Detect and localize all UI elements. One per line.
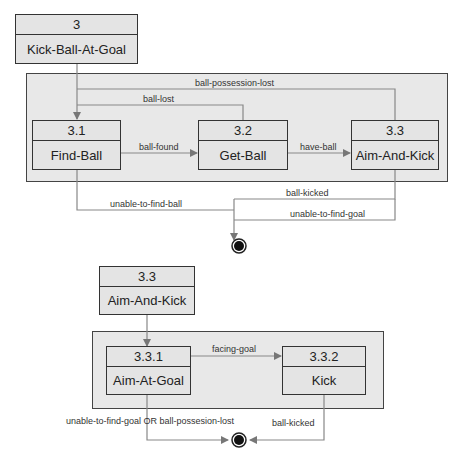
state-name: Aim-And-Kick	[352, 141, 438, 170]
label-ball-kicked: ball-kicked	[286, 188, 329, 198]
label-unable-to-find-ball: unable-to-find-ball	[110, 199, 182, 209]
state-name: Aim-And-Kick	[100, 287, 194, 315]
state-3-2[interactable]: 3.2 Get-Ball	[198, 120, 288, 170]
state-name: Find-Ball	[33, 141, 120, 170]
state-id: 3.3.1	[107, 347, 190, 367]
state-3-3-2[interactable]: 3.3.2 Kick	[282, 346, 366, 395]
state-id: 3	[16, 15, 137, 35]
state-name: Kick	[283, 367, 365, 395]
state-id: 3.3.2	[283, 347, 365, 367]
label-facing-goal: facing-goal	[212, 344, 256, 354]
state-name: Kick-Ball-At-Goal	[16, 35, 137, 64]
state-id: 3.3	[352, 121, 438, 141]
label-unable-to-find-goal: unable-to-find-goal	[290, 209, 365, 219]
state-id: 3.2	[199, 121, 287, 141]
label-ball-kicked-2: ball-kicked	[272, 418, 315, 428]
final-state-1	[232, 239, 246, 253]
state-3-3[interactable]: 3.3 Aim-And-Kick	[351, 120, 439, 170]
transition-lines	[0, 0, 463, 466]
label-unable-or-lost: unable-to-find-goal OR ball-possesion-lo…	[66, 416, 234, 426]
label-ball-lost: ball-lost	[143, 94, 174, 104]
label-have-ball: have-ball	[300, 142, 337, 152]
state-3-1[interactable]: 3.1 Find-Ball	[32, 120, 121, 170]
label-ball-found: ball-found	[139, 142, 179, 152]
state-3-3-parent[interactable]: 3.3 Aim-And-Kick	[99, 266, 195, 315]
label-ball-possession-lost: ball-possession-lost	[195, 78, 274, 88]
state-id: 3.1	[33, 121, 120, 141]
state-3-3-1[interactable]: 3.3.1 Aim-At-Goal	[106, 346, 191, 395]
state-name: Get-Ball	[199, 141, 287, 170]
state-3[interactable]: 3 Kick-Ball-At-Goal	[15, 14, 138, 64]
state-id: 3.3	[100, 267, 194, 287]
state-name: Aim-At-Goal	[107, 367, 190, 395]
final-state-2	[232, 433, 246, 447]
